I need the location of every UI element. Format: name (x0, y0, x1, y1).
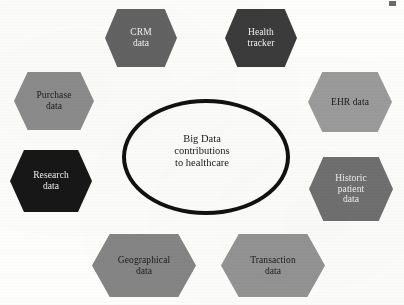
scan-artifact-mark (389, 1, 396, 6)
diagram-canvas: Big Data contributions to healthcare CRM… (0, 0, 404, 305)
center-label: Big Data contributions to healthcare (132, 133, 272, 170)
node-historic-patient-data-label: Historic patient data (335, 173, 366, 205)
node-health-tracker[interactable]: Health tracker (225, 9, 297, 67)
node-ehr-data[interactable]: EHR data (308, 72, 392, 132)
node-purchase-data-label: Purchase data (36, 90, 71, 111)
node-purchase-data[interactable]: Purchase data (14, 72, 94, 130)
node-health-tracker-label: Health tracker (247, 27, 274, 48)
node-research-data-label: Research data (33, 170, 69, 191)
node-geographical-data-label: Geographical data (118, 255, 170, 276)
node-crm-data[interactable]: CRM data (105, 9, 177, 67)
node-geographical-data[interactable]: Geographical data (92, 234, 196, 297)
node-historic-patient-data[interactable]: Historic patient data (309, 157, 393, 221)
node-transaction-data-label: Transaction data (250, 255, 296, 276)
node-research-data[interactable]: Research data (10, 150, 92, 212)
node-ehr-data-label: EHR data (331, 97, 369, 108)
node-crm-data-label: CRM data (130, 27, 151, 48)
node-transaction-data[interactable]: Transaction data (221, 234, 325, 297)
